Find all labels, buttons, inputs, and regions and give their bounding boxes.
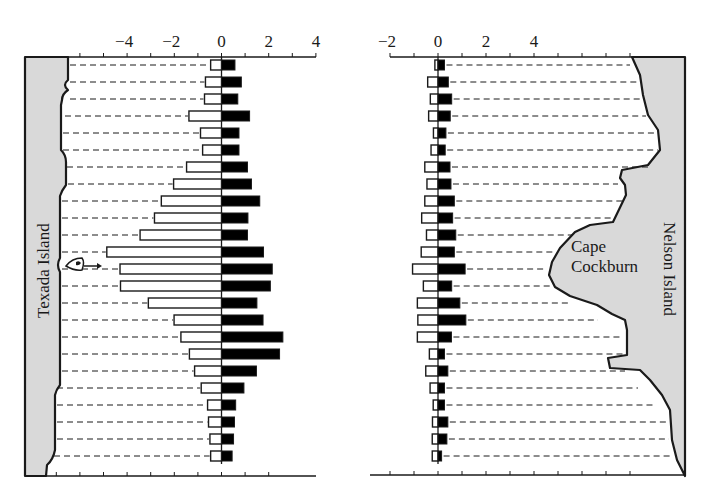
transect-bar-chart-figure: −4−2024 Texada Island −2024 Cape Cockbur… bbox=[0, 0, 709, 496]
filled-bar bbox=[222, 434, 234, 444]
left-panel-texada: −4−2024 Texada Island bbox=[25, 32, 321, 476]
filled-bar bbox=[222, 315, 264, 325]
cape-label-line1: Cape bbox=[571, 237, 606, 256]
tick-label: 4 bbox=[530, 32, 539, 51]
open-bar bbox=[174, 315, 221, 325]
open-bar bbox=[429, 111, 438, 121]
open-bar bbox=[120, 264, 221, 274]
filled-bar bbox=[438, 434, 447, 444]
open-bar bbox=[432, 451, 438, 461]
filled-bar bbox=[438, 94, 452, 104]
filled-bar bbox=[222, 77, 242, 87]
open-bar bbox=[413, 264, 438, 274]
open-bar bbox=[208, 400, 222, 410]
open-bar bbox=[430, 383, 438, 393]
open-bar bbox=[431, 145, 438, 155]
filled-bar bbox=[438, 230, 456, 240]
tick-label: 4 bbox=[312, 32, 321, 51]
filled-bar bbox=[222, 400, 236, 410]
filled-bar bbox=[222, 281, 271, 291]
filled-bar bbox=[438, 60, 444, 70]
filled-bar bbox=[438, 281, 452, 291]
filled-bar bbox=[438, 247, 454, 257]
open-bar bbox=[417, 298, 438, 308]
filled-bar bbox=[222, 366, 257, 376]
open-bar bbox=[433, 400, 438, 410]
open-bar bbox=[432, 417, 438, 427]
open-bar bbox=[205, 94, 222, 104]
filled-bar bbox=[438, 179, 451, 189]
filled-bar bbox=[438, 417, 448, 427]
open-bar bbox=[148, 298, 221, 308]
arrow-right-icon bbox=[97, 263, 102, 269]
open-bar bbox=[418, 315, 438, 325]
tick-label: 0 bbox=[217, 32, 226, 51]
filled-bar bbox=[222, 162, 248, 172]
open-bar bbox=[421, 247, 438, 257]
filled-bar bbox=[438, 111, 450, 121]
open-bar bbox=[195, 366, 222, 376]
filled-bar bbox=[222, 128, 239, 138]
filled-bar bbox=[222, 60, 235, 70]
open-bar bbox=[120, 281, 221, 291]
filled-bar bbox=[222, 332, 283, 342]
open-bar bbox=[174, 179, 222, 189]
open-bar bbox=[200, 128, 221, 138]
filled-bar bbox=[222, 417, 235, 427]
filled-bar bbox=[438, 145, 445, 155]
filled-bar bbox=[438, 451, 442, 461]
open-bar bbox=[189, 111, 222, 121]
open-bar bbox=[430, 94, 438, 104]
filled-bar bbox=[222, 247, 264, 257]
open-bar bbox=[428, 77, 438, 87]
filled-bar bbox=[222, 94, 238, 104]
tick-label: 2 bbox=[482, 32, 491, 51]
filled-bar bbox=[222, 179, 252, 189]
filled-bar bbox=[222, 230, 248, 240]
tick-label: −2 bbox=[162, 32, 180, 51]
open-bar bbox=[211, 60, 222, 70]
open-bar bbox=[425, 196, 438, 206]
filled-bar bbox=[222, 196, 260, 206]
filled-bar bbox=[438, 349, 444, 359]
open-bar bbox=[417, 332, 438, 342]
filled-bar bbox=[222, 383, 244, 393]
open-bar bbox=[427, 179, 438, 189]
filled-bar bbox=[438, 162, 450, 172]
open-bar bbox=[187, 162, 222, 172]
open-bar bbox=[140, 230, 221, 240]
tick-label: 2 bbox=[264, 32, 273, 51]
cape-label-line2: Cockburn bbox=[571, 257, 639, 276]
open-bar bbox=[422, 213, 438, 223]
filled-bar bbox=[222, 349, 280, 359]
open-bar bbox=[189, 349, 221, 359]
filled-bar bbox=[222, 264, 273, 274]
open-bar bbox=[181, 332, 222, 342]
filled-bar bbox=[438, 264, 465, 274]
filled-bar bbox=[438, 332, 451, 342]
open-bar bbox=[423, 281, 438, 291]
filled-bar bbox=[222, 451, 233, 461]
filled-bar bbox=[222, 298, 257, 308]
open-bar bbox=[426, 230, 438, 240]
open-bar bbox=[154, 213, 221, 223]
open-bar bbox=[201, 383, 221, 393]
filled-bar bbox=[438, 213, 453, 223]
boat-icon bbox=[66, 258, 102, 270]
tick-label: 0 bbox=[434, 32, 443, 51]
open-bar bbox=[107, 247, 222, 257]
filled-bar bbox=[438, 315, 466, 325]
left-bars bbox=[107, 60, 283, 461]
filled-bar bbox=[222, 145, 239, 155]
open-bar bbox=[429, 349, 438, 359]
filled-bar bbox=[438, 128, 446, 138]
tick-label: −2 bbox=[378, 32, 396, 51]
open-bar bbox=[210, 434, 222, 444]
tick-label: −4 bbox=[115, 32, 134, 51]
open-bar bbox=[426, 366, 438, 376]
open-bar bbox=[433, 128, 438, 138]
right-bars bbox=[413, 60, 466, 461]
filled-bar bbox=[222, 213, 248, 223]
open-bar bbox=[205, 77, 221, 87]
filled-bar bbox=[438, 400, 444, 410]
